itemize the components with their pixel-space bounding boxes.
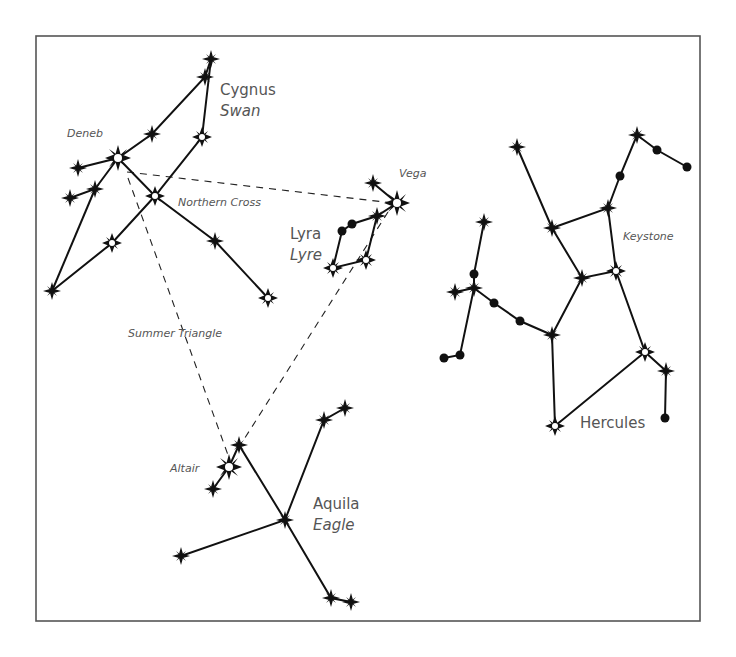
hercules-label: Hercules (580, 414, 645, 432)
swan-label: Swan (220, 102, 261, 120)
deneb-label: Deneb (67, 127, 103, 140)
altair-label: Altair (169, 462, 201, 475)
summer-triangle-label: Summer Triangle (128, 327, 222, 340)
vega-label: Vega (399, 167, 427, 180)
northern-cross-label: Northern Cross (178, 196, 261, 209)
lyre-label: Lyre (290, 246, 322, 264)
altair-star (216, 454, 242, 480)
aquila-label: Aquila (313, 495, 360, 513)
lyra-stars (323, 174, 410, 278)
cygnus-label: Cygnus (220, 81, 276, 99)
hercules-stars (440, 126, 692, 436)
hercules-lines (444, 135, 687, 426)
summer-triangle-lines (127, 172, 393, 455)
eagle-label: Eagle (313, 516, 355, 534)
star-chart: Cygnus Swan Deneb Northern Cross Vega Ly… (0, 0, 736, 657)
keystone-label: Keystone (623, 230, 674, 243)
lyra-label: Lyra (290, 225, 321, 243)
